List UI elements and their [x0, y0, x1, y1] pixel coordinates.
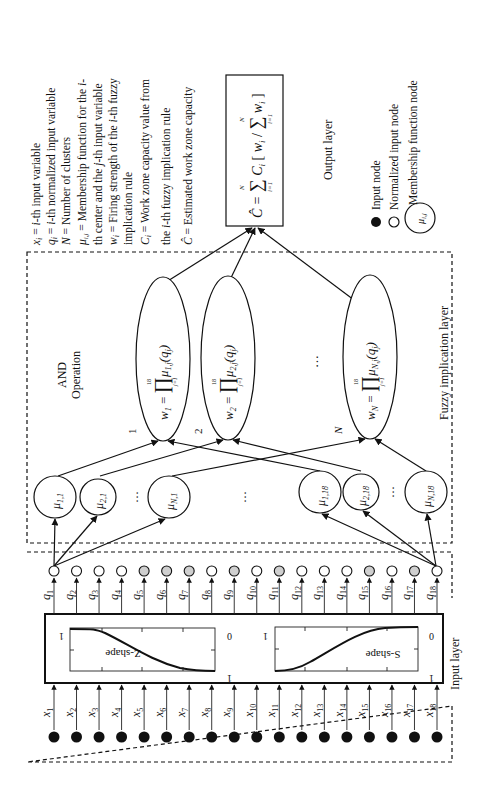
variable-label: q6	[152, 590, 168, 600]
node-legend: μi,j Input node Normalized input node Me…	[370, 80, 435, 233]
variable-label: q4	[107, 590, 123, 600]
variable-label: x17	[399, 704, 415, 718]
variable-label: x4	[107, 708, 123, 718]
legend-normalized-node: Normalized input node	[388, 104, 401, 210]
variable-label: x14	[332, 704, 348, 718]
normalized-input-node	[94, 566, 104, 576]
variable-label: q16	[377, 586, 393, 600]
variable-label: x8	[197, 708, 213, 718]
svg-text:18: 18	[146, 379, 152, 385]
input-node	[296, 732, 307, 743]
variable-label: q18	[422, 586, 438, 600]
input-layer-label: Input layer	[448, 638, 462, 690]
definitions-legend: xi = i-th input variable qi = i-th norma…	[30, 78, 195, 246]
svg-text:…: …	[383, 486, 397, 498]
normalized-input-node	[72, 566, 82, 576]
svg-text:0: 0	[227, 631, 232, 642]
variable-label: x1	[39, 708, 55, 718]
svg-text:1: 1	[429, 673, 434, 684]
svg-text:i=1: i=1	[266, 182, 274, 192]
normalized-input-node	[297, 566, 307, 576]
variable-label: q5	[129, 590, 145, 600]
and-label: AND	[55, 362, 69, 388]
input-node	[364, 732, 375, 743]
rule-label-1: 1	[126, 429, 138, 435]
input-node	[94, 732, 105, 743]
normalized-input-nodes: q1q2q3q4q5q6q7q8q9q10q11q12q13q14q15q16q…	[39, 566, 442, 614]
variable-label: q7	[174, 590, 190, 600]
rule-ellipsis: …	[306, 355, 321, 368]
def-w: wi = Firing strength of the i-th fuzzy	[107, 78, 121, 245]
variable-label: q13	[309, 586, 325, 600]
def-c: Ci = Work zone capacity value from	[139, 79, 153, 245]
input-node	[116, 732, 127, 743]
variable-label: x9	[219, 708, 235, 718]
operation-label: Operation	[69, 351, 83, 399]
rule-node-2: w2 = ∏μ2,j(qj) 18 j=1 2	[192, 276, 255, 440]
svg-text:j=1: j=1	[379, 377, 385, 387]
variable-label: q8	[197, 590, 213, 600]
svg-text:0: 0	[429, 631, 434, 642]
output-formula: Ĉ = ∑ Ci [ wi / ∑ wi ]	[246, 93, 267, 218]
rule-node-n: wN = ∏μN,j(qj) 18 j=1 N	[332, 275, 397, 439]
legend-membership-node: Membership function node	[407, 80, 420, 205]
variable-label: x2	[62, 708, 78, 718]
input-node	[409, 732, 420, 743]
normalization-box	[45, 614, 443, 683]
variable-label: x16	[377, 704, 393, 718]
input-node	[319, 732, 330, 743]
input-node	[432, 732, 443, 743]
variable-label: x15	[354, 704, 370, 718]
normalized-input-node	[319, 566, 329, 576]
variable-label: q9	[219, 590, 235, 600]
membership-nodes: μ1,1 μ2,1 … μN,1 … μ1,18 μ2,18 … μN,18	[34, 471, 447, 518]
def-n: N = Number of clusters	[60, 136, 72, 246]
fuzzy-network-diagram: xi = i-th input variable qi = i-th norma…	[0, 0, 488, 789]
svg-text:…: …	[127, 491, 141, 503]
variable-label: q2	[62, 590, 78, 600]
input-node	[386, 732, 397, 743]
variable-label: x10	[242, 704, 258, 718]
normalized-input-node	[117, 566, 127, 576]
variable-label: q14	[332, 586, 348, 600]
variable-label: x6	[152, 708, 168, 718]
svg-text:1: 1	[263, 631, 268, 642]
variable-label: q15	[354, 586, 370, 600]
def-mu: μi,j = Membership function for the i-	[76, 79, 90, 246]
normalized-input-node	[252, 566, 262, 576]
variable-label: q1	[39, 590, 55, 600]
input-node	[251, 732, 262, 743]
input-node	[184, 732, 195, 743]
def-c-cont: the i-th fuzzy implication rule	[160, 108, 173, 245]
svg-text:…: …	[235, 491, 249, 503]
svg-text:N: N	[238, 117, 246, 123]
normalized-input-node	[432, 566, 442, 576]
variable-label: x11	[264, 704, 280, 718]
rule-node-1: w1 = ∏μ1,j(qj) 18 j=1 1	[126, 277, 190, 441]
input-node-icon	[371, 217, 381, 227]
variable-label: x5	[129, 708, 145, 718]
svg-text:j=1: j=1	[172, 377, 178, 387]
variable-label: x7	[174, 708, 190, 718]
s-shape-label: S-shape	[365, 649, 400, 661]
variable-label: q10	[242, 586, 258, 600]
normalized-input-node	[49, 566, 59, 576]
variable-label: x3	[84, 708, 100, 718]
variable-label: q11	[264, 586, 280, 600]
def-q: qi = i-th normalized input variable	[45, 88, 59, 245]
svg-text:N: N	[238, 185, 246, 191]
normalized-input-node	[364, 566, 374, 576]
rule-label-n: N	[332, 426, 344, 435]
svg-text:1: 1	[227, 673, 232, 684]
fuzzy-layer-label: Fuzzy implication layer	[437, 306, 451, 420]
svg-text:18: 18	[211, 379, 217, 385]
normalized-input-node	[387, 566, 397, 576]
input-node	[71, 732, 82, 743]
def-w-cont: implication rule	[122, 172, 135, 245]
variable-label: x13	[309, 704, 325, 718]
def-chat: Ĉ = Estimated work zone capacity	[181, 87, 195, 245]
z-shape-label: Z-shape	[105, 648, 141, 660]
input-node	[139, 732, 150, 743]
input-node	[229, 732, 240, 743]
normalized-input-node	[207, 566, 217, 576]
